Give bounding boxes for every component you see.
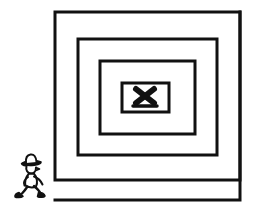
illustration-canvas: X marks the spot maze A concentric squar… [0,0,255,223]
shoe-front [38,192,46,197]
hat-crown [26,154,37,163]
torso [25,174,37,188]
maze-drawing [0,0,255,223]
